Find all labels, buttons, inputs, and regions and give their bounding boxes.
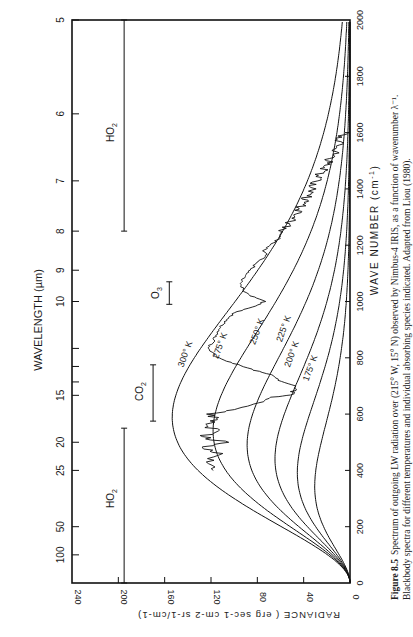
temperature-label: 250° K — [247, 317, 266, 346]
radiance-tick-label: 200 — [119, 589, 129, 604]
wavelength-tick-label: 6 — [55, 111, 66, 117]
absorber-bands: HO2CO2O3HO2 — [105, 20, 172, 583]
absorber-label: CO2 — [134, 382, 147, 401]
absorber-label: HO2 — [105, 489, 118, 508]
wavenumber-tick-label: 600 — [355, 407, 365, 422]
wavenumber-tick-label: 1600 — [355, 123, 365, 143]
radiance-tick-label: 80 — [258, 592, 268, 602]
wavelength-tick-label: 10 — [55, 296, 66, 308]
absorber-label: O3 — [150, 287, 163, 299]
temperature-label: 225° K — [274, 314, 293, 343]
wavenumber-tick-label: 1800 — [355, 66, 365, 86]
wavelength-tick-label: 9 — [55, 267, 66, 273]
radiance-tick-label: 0 — [351, 594, 361, 599]
wavenumber-axis-title: WAVE NUMBER (cm-1) — [368, 165, 380, 295]
wavenumber-tick-label: 0 — [355, 580, 365, 585]
radiance-tick-label: 240 — [73, 589, 83, 604]
figure-caption-line1: Figure 8.5Spectrum of outgoing LW radiat… — [390, 95, 401, 600]
axis-ticks: 0408012016020024002004006008001000120014… — [55, 10, 365, 605]
wavelength-tick-label: 15 — [55, 389, 66, 401]
wavenumber-tick-label: 200 — [355, 519, 365, 534]
wavelength-tick-label: 50 — [55, 521, 66, 533]
radiance-tick-label: 40 — [305, 592, 315, 602]
temperature-label: 300° K — [176, 340, 195, 369]
wavelength-tick-label: 7 — [55, 178, 66, 184]
wavelength-tick-label: 5 — [55, 17, 66, 23]
blackbody-curve — [275, 22, 350, 583]
temperature-label: 200° K — [282, 340, 301, 369]
radiance-spectrum-chart: 0408012016020024002004006008001000120014… — [0, 0, 413, 637]
wavelength-tick-label: 20 — [55, 436, 66, 448]
absorber-label: HO2 — [105, 123, 118, 142]
wavelength-tick-label: 8 — [55, 228, 66, 234]
wavelength-axis-title: WAVELENGTH (µm) — [32, 269, 44, 371]
wavenumber-tick-label: 1400 — [355, 179, 365, 199]
blackbody-curve — [297, 22, 350, 583]
blackbody-curve — [315, 22, 350, 583]
figure-caption-line2: Blackbody spectra for different temperat… — [402, 158, 413, 600]
wavenumber-tick-label: 400 — [355, 463, 365, 478]
wavelength-tick-label: 100 — [55, 546, 66, 563]
radiance-tick-label: 120 — [212, 589, 222, 604]
radiance-axis-title: RADIANCE ( erg sec-1 cm-2 sr-1/cm-1) — [137, 610, 340, 621]
wavenumber-tick-label: 800 — [355, 350, 365, 365]
radiance-tick-label: 160 — [166, 589, 176, 604]
wavenumber-tick-label: 1000 — [355, 291, 365, 311]
wavelength-tick-label: 25 — [55, 464, 66, 476]
wavenumber-tick-label: 2000 — [355, 10, 365, 30]
wavenumber-tick-label: 1200 — [355, 235, 365, 255]
